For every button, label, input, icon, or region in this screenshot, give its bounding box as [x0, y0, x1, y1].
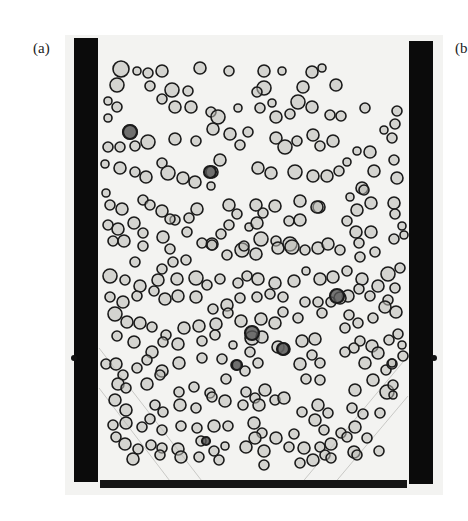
bubble	[309, 333, 321, 345]
bubble	[307, 454, 319, 466]
bubble	[241, 387, 251, 397]
bubble	[278, 140, 292, 154]
bubble	[350, 226, 362, 238]
bubble	[351, 204, 363, 216]
bubble	[207, 392, 217, 402]
bubble	[278, 307, 288, 317]
bubble	[342, 216, 352, 226]
bubble	[270, 111, 282, 123]
bubble	[395, 263, 405, 273]
bubble	[157, 231, 169, 243]
bubble	[251, 217, 263, 229]
bubble	[389, 155, 399, 165]
bubble	[215, 274, 225, 284]
bubble	[234, 104, 242, 112]
bubble	[185, 101, 197, 113]
bubble	[191, 203, 203, 215]
bubble	[158, 407, 168, 417]
bubble	[120, 417, 132, 429]
bubble	[254, 232, 268, 246]
bubble	[388, 359, 396, 367]
bubble	[145, 81, 155, 91]
bubble	[375, 408, 385, 418]
bubble	[121, 316, 133, 328]
bubble	[190, 291, 202, 303]
bubble	[253, 358, 263, 368]
bubble	[314, 273, 326, 285]
bubble	[235, 140, 245, 150]
bubble	[165, 214, 175, 224]
bubble	[277, 343, 289, 355]
bubble	[232, 209, 242, 219]
bubble	[142, 355, 152, 365]
bubble	[309, 414, 321, 426]
bubble	[183, 86, 193, 96]
bubble	[145, 414, 155, 424]
bubble	[165, 244, 175, 254]
bubble	[149, 286, 159, 296]
bubble	[193, 320, 205, 332]
bubble	[110, 358, 122, 370]
bubble	[359, 185, 369, 195]
bubble	[364, 146, 376, 158]
bubble	[192, 423, 202, 433]
bubble	[105, 292, 115, 302]
bubble	[398, 351, 408, 361]
bubble	[258, 445, 270, 457]
bubble	[143, 68, 153, 78]
bubble	[390, 306, 402, 318]
bubble	[265, 289, 275, 299]
base-plate	[100, 480, 407, 488]
bubble	[362, 433, 372, 443]
bubble	[155, 370, 165, 380]
bubble	[156, 65, 168, 77]
left-wall-port	[71, 355, 77, 361]
bubble	[349, 343, 359, 353]
bubble	[112, 102, 122, 112]
bubbles-layer	[101, 61, 408, 470]
bubble	[238, 400, 248, 410]
bubble	[252, 162, 264, 174]
bubble	[157, 94, 167, 104]
bubble	[216, 229, 226, 239]
bubble	[250, 248, 262, 260]
right-wall	[409, 41, 433, 484]
bubble	[321, 170, 333, 182]
bubble	[197, 336, 207, 346]
bubble	[354, 284, 364, 294]
bubble	[130, 167, 140, 177]
bubble	[182, 227, 192, 237]
bubble	[232, 360, 242, 370]
bubble	[342, 432, 352, 442]
bubble	[293, 313, 303, 323]
bubble	[137, 422, 147, 432]
bubble	[217, 354, 227, 364]
bubble	[157, 425, 167, 435]
bubble	[301, 374, 311, 384]
bubble	[224, 220, 234, 230]
bubble	[356, 273, 368, 285]
bubble	[121, 383, 131, 393]
bubble	[108, 236, 118, 246]
bubble	[272, 242, 284, 254]
bubble	[343, 158, 351, 166]
bubble	[108, 420, 118, 430]
bubble	[104, 114, 112, 122]
bubble	[384, 335, 394, 345]
bubble	[161, 166, 175, 180]
bubble	[285, 109, 295, 119]
bubble	[115, 142, 125, 152]
bubble	[288, 165, 302, 179]
bubble	[243, 127, 253, 137]
bubble	[194, 452, 204, 462]
bubble	[191, 403, 201, 413]
bubble	[278, 392, 290, 404]
bubble	[381, 267, 395, 281]
bubble	[352, 450, 362, 460]
bubble	[189, 271, 203, 285]
bubble	[211, 110, 225, 124]
bubble	[325, 110, 335, 120]
bubble	[259, 460, 269, 470]
bubble	[146, 440, 156, 450]
bubble	[269, 277, 281, 289]
